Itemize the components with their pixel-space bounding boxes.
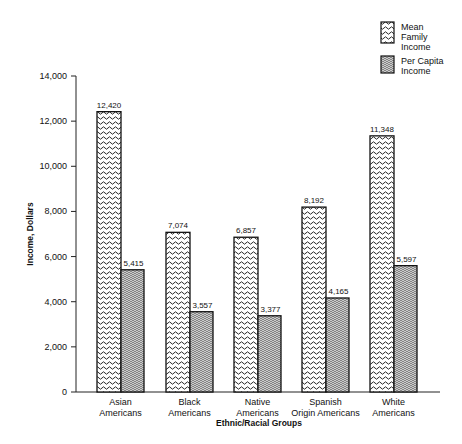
legend-item-per-capita-income: Per CapitaIncome bbox=[381, 56, 444, 76]
category-label-line2: Origin Americans bbox=[291, 408, 360, 418]
category-label-line2: Americans bbox=[168, 408, 211, 418]
bar-value-label: 5,415 bbox=[123, 259, 144, 268]
per-capita-income-bar bbox=[121, 270, 144, 392]
legend-label: Income bbox=[401, 42, 431, 52]
y-axis-title: Income, Dollars bbox=[25, 202, 35, 266]
bar-value-label: 3,377 bbox=[260, 305, 281, 314]
bar-value-label: 8,192 bbox=[304, 196, 325, 205]
bar-group-black: 7,0743,557BlackAmericans bbox=[166, 221, 213, 418]
y-tick-label: 4,000 bbox=[44, 297, 67, 307]
bar-group-white: 11,3485,597WhiteAmericans bbox=[370, 125, 417, 418]
category-label-line2: Americans bbox=[236, 408, 279, 418]
legend-item-mean-family-income: MeanFamilyIncome bbox=[381, 22, 431, 52]
legend-label: Per Capita bbox=[401, 56, 444, 66]
bar-group-spanish: 8,1924,165SpanishOrigin Americans bbox=[291, 196, 360, 418]
legend: MeanFamilyIncomePer CapitaIncome bbox=[381, 22, 444, 76]
category-label-line2: Americans bbox=[99, 408, 142, 418]
mean-family-income-bar bbox=[97, 112, 121, 392]
y-tick-label: 2,000 bbox=[44, 342, 67, 352]
category-label-line1: Black bbox=[178, 397, 201, 407]
bar-value-label: 11,348 bbox=[370, 125, 394, 134]
y-tick-label: 0 bbox=[62, 387, 67, 397]
x-axis-title: Ethnic/Racial Groups bbox=[216, 418, 302, 428]
bar-value-label: 12,420 bbox=[97, 101, 122, 110]
per-capita-income-bar bbox=[394, 266, 417, 392]
mean-family-income-bar bbox=[302, 207, 326, 392]
mean-family-income-bar bbox=[370, 136, 394, 392]
bar-value-label: 4,165 bbox=[328, 287, 349, 296]
category-label-line1: Native bbox=[245, 397, 271, 407]
bar-value-label: 5,597 bbox=[396, 255, 417, 264]
bar-groups: 12,4205,415AsianAmericans7,0743,557Black… bbox=[97, 101, 417, 418]
y-tick-label: 14,000 bbox=[39, 71, 67, 81]
y-tick-label: 6,000 bbox=[44, 252, 67, 262]
y-tick-label: 10,000 bbox=[39, 161, 67, 171]
per-capita-income-bar bbox=[326, 298, 349, 392]
income-bar-chart: 02,0004,0006,0008,00010,00012,00014,000 … bbox=[0, 0, 462, 444]
legend-label: Family bbox=[401, 32, 428, 42]
per-capita-income-bar bbox=[190, 312, 213, 392]
category-label-line1: Asian bbox=[109, 397, 132, 407]
legend-swatch bbox=[381, 56, 394, 73]
bar-value-label: 6,857 bbox=[236, 226, 257, 235]
per-capita-income-bar bbox=[258, 316, 281, 392]
y-tick-label: 8,000 bbox=[44, 206, 67, 216]
y-axis: 02,0004,0006,0008,00010,00012,00014,000 bbox=[39, 71, 76, 397]
y-tick-label: 12,000 bbox=[39, 116, 67, 126]
category-label-line2: Americans bbox=[372, 408, 415, 418]
category-label-line1: White bbox=[382, 397, 405, 407]
legend-label: Mean bbox=[401, 22, 424, 32]
bar-value-label: 7,074 bbox=[168, 221, 189, 230]
category-label-line1: Spanish bbox=[309, 397, 342, 407]
bar-group-asian: 12,4205,415AsianAmericans bbox=[97, 101, 144, 418]
mean-family-income-bar bbox=[234, 237, 258, 392]
legend-swatch bbox=[381, 22, 394, 43]
bar-value-label: 3,557 bbox=[192, 301, 213, 310]
mean-family-income-bar bbox=[166, 232, 190, 392]
legend-label: Income bbox=[401, 66, 431, 76]
bar-group-native: 6,8573,377NativeAmericans bbox=[234, 226, 281, 418]
